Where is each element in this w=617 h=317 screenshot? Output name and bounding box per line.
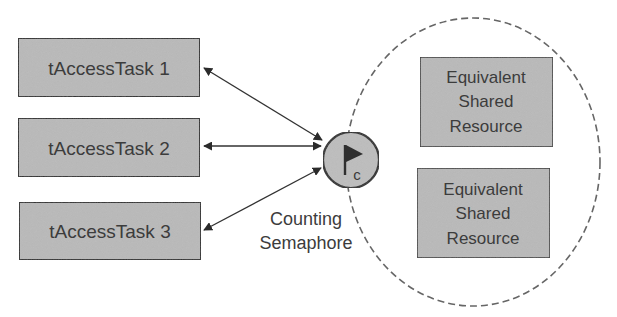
resource-1-line1: Equivalent [446, 68, 526, 87]
task-box-2: tAccessTask 2 [18, 118, 200, 177]
semaphore-badge-c: c [353, 166, 361, 183]
task-box-1: tAccessTask 1 [18, 38, 200, 97]
task-box-3: tAccessTask 3 [19, 202, 201, 260]
resource-box-2: Equivalent Shared Resource [417, 168, 550, 258]
semaphore-label-line1: Counting [270, 209, 342, 229]
connection-task1-semaphore [204, 68, 322, 140]
semaphore-node: c [323, 132, 379, 188]
resource-2-line1: Equivalent [443, 180, 523, 199]
resource-2-line2: Shared [456, 204, 511, 223]
task-label-3: tAccessTask 3 [49, 221, 170, 242]
semaphore-diagram: tAccessTask 1 tAccessTask 2 tAccessTask … [0, 0, 617, 317]
resource-box-1: Equivalent Shared Resource [420, 57, 553, 147]
resource-2-line3: Resource [447, 229, 520, 248]
task-label-1: tAccessTask 1 [48, 58, 169, 79]
resource-1-line3: Resource [450, 117, 523, 136]
resource-1-line2: Shared [459, 92, 514, 111]
semaphore-label-line2: Semaphore [259, 233, 352, 253]
task-label-2: tAccessTask 2 [48, 138, 169, 159]
